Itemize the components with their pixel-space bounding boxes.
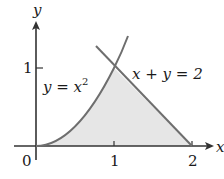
x-axis-label: x [216,138,224,156]
x-tick-label-2: 2 [188,152,198,170]
diagram-canvas: y x 0 1 2 1 y = x2 x + y = 2 [0,0,224,179]
parabola-equation-text: y = x [42,78,83,96]
parabola-exponent: 2 [82,76,88,87]
x-tick-label-1: 1 [110,152,120,170]
origin-label: 0 [22,152,32,170]
line-equation-label: x + y = 2 [132,65,203,83]
parabola-equation-label: y = x2 [42,76,88,96]
y-tick-label-1: 1 [23,59,33,77]
y-axis-label: y [32,1,42,19]
